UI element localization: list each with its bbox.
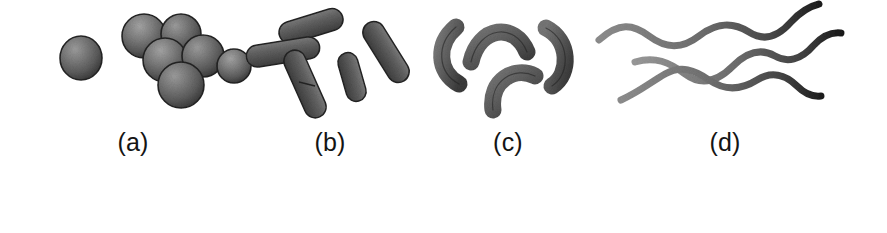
panel-b-artwork bbox=[245, 0, 415, 120]
vibrio-cell bbox=[471, 32, 527, 62]
panel-d-label: (d) bbox=[595, 128, 887, 156]
panel-b-label: (b) bbox=[245, 128, 415, 156]
panel-c-vibrios: (c) bbox=[423, 0, 593, 170]
coccus-single bbox=[60, 36, 102, 80]
coccus-cluster-cell bbox=[158, 62, 204, 108]
bacillus-rod bbox=[359, 17, 414, 86]
panel-a-artwork bbox=[48, 0, 218, 120]
panel-a-cocci: (a) bbox=[48, 0, 218, 170]
bacillus-rod bbox=[335, 50, 368, 104]
panel-d-spirochetes: (d) bbox=[595, 0, 855, 170]
bacterial-morphology-figure: (a) bbox=[0, 0, 887, 233]
bacillus-rod bbox=[245, 35, 322, 68]
panel-c-label: (c) bbox=[423, 128, 593, 156]
vibrio-cell bbox=[493, 73, 535, 110]
panel-d-artwork bbox=[595, 0, 855, 120]
panel-a-label: (a) bbox=[48, 128, 218, 156]
panel-b-bacilli: (b) bbox=[245, 0, 415, 170]
panel-c-artwork bbox=[423, 0, 593, 120]
spirochete-cell bbox=[599, 4, 819, 46]
vibrio-cell bbox=[546, 28, 565, 86]
vibrio-cell bbox=[442, 27, 459, 84]
